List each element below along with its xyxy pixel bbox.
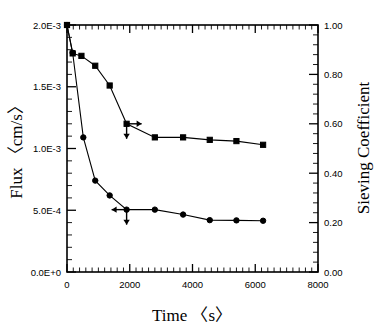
y2-tick-label: 0.80: [324, 69, 343, 80]
x-axis-title: Time 〈s〉: [152, 306, 232, 325]
annotation-layer: [112, 121, 142, 225]
y2-axis-tick-labels: 0.000.200.400.600.801.00: [324, 20, 343, 278]
annotation-arrowhead-left: [112, 206, 117, 212]
x-tick-label: 0: [64, 279, 69, 290]
annotation-arrowhead-down: [123, 134, 129, 139]
y2-axis-ticks: [309, 25, 318, 272]
series-flux: [64, 22, 265, 223]
data-point: [93, 63, 98, 68]
series-line: [67, 25, 263, 145]
series-sieving-coefficient: [64, 22, 265, 147]
x-tick-label: 4000: [182, 279, 203, 290]
y-tick-label: 0.0E+0: [31, 267, 61, 278]
y-axis-ticks: [67, 25, 76, 272]
y2-tick-label: 0.20: [324, 217, 343, 228]
x-tick-label: 2000: [119, 279, 140, 290]
y-axis-title: Flux 〈cm/s〉: [7, 97, 26, 199]
data-point: [260, 218, 265, 223]
data-series-layer: [64, 22, 265, 223]
data-point: [207, 137, 212, 142]
annotation-arrowhead-right: [137, 121, 142, 127]
data-point: [107, 193, 112, 198]
plot-frame: [67, 25, 318, 272]
data-point: [64, 22, 69, 27]
data-point: [81, 135, 86, 140]
y-tick-label: 5.0E-4: [33, 205, 61, 216]
y-axis-tick-labels: 0.0E+05.0E-41.0E-31.5E-32.0E-3: [31, 20, 61, 278]
data-point: [260, 142, 265, 147]
chart-figure: 02000400060008000 0.0E+05.0E-41.0E-31.5E…: [0, 0, 387, 328]
data-point: [180, 212, 185, 217]
data-point: [93, 178, 98, 183]
x-axis-ticks: [67, 25, 318, 272]
data-point: [180, 135, 185, 140]
data-point: [234, 138, 239, 143]
data-point: [79, 53, 84, 58]
data-point: [152, 135, 157, 140]
data-point: [152, 207, 157, 212]
data-point: [207, 217, 212, 222]
annotation-arrowhead-down: [123, 220, 129, 225]
y-tick-label: 1.0E-3: [33, 143, 61, 154]
x-axis-tick-labels: 02000400060008000: [64, 279, 328, 290]
data-point: [234, 218, 239, 223]
y-tick-label: 1.5E-3: [33, 81, 61, 92]
y2-tick-label: 1.00: [324, 20, 343, 31]
series-line: [67, 25, 263, 221]
x-tick-label: 6000: [245, 279, 266, 290]
y-tick-label: 2.0E-3: [33, 20, 61, 31]
y2-tick-label: 0.60: [324, 118, 343, 129]
chart-canvas: 02000400060008000 0.0E+05.0E-41.0E-31.5E…: [0, 0, 387, 328]
data-point: [70, 50, 75, 55]
x-tick-label: 8000: [307, 279, 328, 290]
y2-tick-label: 0.40: [324, 168, 343, 179]
y2-axis-title: Sieving Coefficient: [354, 82, 373, 215]
data-point: [107, 83, 112, 88]
y2-tick-label: 0.00: [324, 267, 343, 278]
